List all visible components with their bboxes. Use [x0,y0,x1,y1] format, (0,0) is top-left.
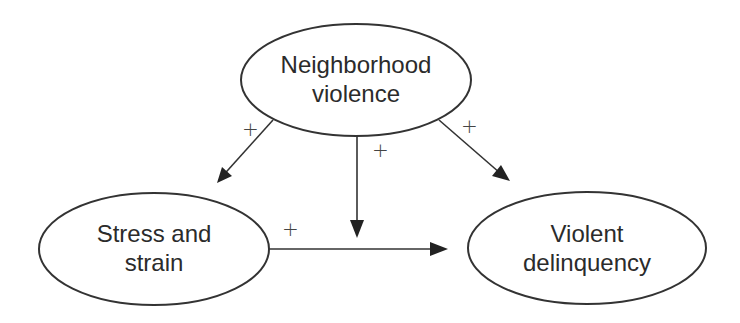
node-label-line2: violence [256,79,456,108]
node-neighborhood-violence: Neighborhood violence [256,50,456,108]
node-violent-delinquency: Violent delinquency [487,219,687,277]
arrowhead-neighborhood-to-moderation [350,220,364,238]
edge-sign-neighborhood-to-stress: + [242,119,259,139]
edge-sign-neighborhood-to-violent: + [461,116,478,136]
node-label-line2: strain [54,248,254,277]
arrowhead-neighborhood-to-stress [217,167,232,183]
node-label-line1: Stress and [54,219,254,248]
arrowhead-stress-to-violent [430,242,448,256]
node-label-line1: Violent [487,219,687,248]
node-label-line2: delinquency [487,248,687,277]
node-label-line1: Neighborhood [256,50,456,79]
node-stress-strain: Stress and strain [54,219,254,277]
edge-sign-stress-to-violent: + [282,219,299,239]
edge-sign-neighborhood-to-moderation: + [372,140,389,160]
